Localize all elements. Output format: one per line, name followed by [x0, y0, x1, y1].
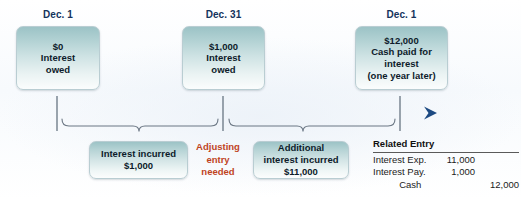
related-entry-table: Related Entry Interest Exp. 11,000 Inter…	[373, 138, 519, 191]
entry-debit-amount: 11,000	[435, 154, 475, 167]
interest-timeline-figure: Dec. 1 $0 Interest owed Dec. 31 $1,000 I…	[0, 0, 521, 200]
entry-account-name: Interest Pay.	[373, 166, 435, 179]
entry-account-name: Cash	[373, 179, 440, 192]
callout-text-2: Additional interest incurred $11,000	[261, 142, 342, 178]
related-entry-rule	[373, 152, 519, 153]
table-row: Interest Exp. 11,000	[373, 154, 519, 167]
related-entry-title: Related Entry	[373, 138, 519, 152]
entry-debit-amount: 1,000	[435, 166, 475, 179]
callout-box-interest-incurred: Interest incurred $1,000	[89, 141, 188, 179]
entry-credit-amount	[475, 166, 519, 179]
entry-debit-amount	[440, 179, 478, 192]
adjusting-entry-note: Adjusting entry needed	[194, 141, 242, 179]
callout-box-additional-interest-incurred: Additional interest incurred $11,000	[253, 141, 349, 179]
period-brace-1	[62, 119, 218, 132]
entry-account-name: Interest Exp.	[373, 154, 435, 167]
entry-credit-amount: 12,000	[477, 179, 519, 192]
period-brace-2	[229, 119, 395, 132]
callout-text-1: Interest incurred $1,000	[98, 148, 179, 172]
table-row: Interest Pay. 1,000	[373, 166, 519, 179]
table-row: Cash 12,000	[373, 179, 519, 192]
entry-credit-amount	[475, 154, 519, 167]
